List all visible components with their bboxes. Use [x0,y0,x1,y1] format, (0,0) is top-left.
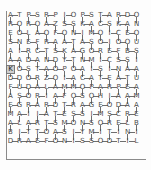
grid-cell[interactable]: L [24,29,33,38]
grid-cell[interactable]: A [33,101,42,110]
grid-cell[interactable]: I [96,56,105,65]
grid-cell[interactable]: R [6,20,15,29]
grid-cell[interactable]: A [87,74,96,83]
grid-cell[interactable]: S [60,128,69,137]
grid-cell[interactable]: C [78,74,87,83]
grid-cell[interactable]: M [69,83,78,92]
grid-cell[interactable]: R [123,110,132,119]
grid-cell[interactable]: T [24,128,33,137]
grid-cell[interactable]: R [42,101,51,110]
grid-cell[interactable]: R [33,74,42,83]
grid-cell[interactable]: T [15,11,24,20]
grid-cell[interactable]: A [24,137,33,146]
grid-cell[interactable]: N [60,137,69,146]
grid-cell[interactable]: S [87,38,96,47]
grid-cell[interactable]: C [33,47,42,56]
grid-cell[interactable]: R [69,101,78,110]
grid-cell[interactable]: I [87,65,96,74]
grid-cell[interactable]: M [132,92,141,101]
grid-cell[interactable]: A [96,83,105,92]
letter-grid-puzzle[interactable]: ATPSRPIOPSTARDOROROAZSSKACSKANEOLAOFONIM… [0,0,151,170]
grid-cell[interactable]: A [51,92,60,101]
grid-cell[interactable]: A [51,83,60,92]
grid-cell[interactable]: T [60,101,69,110]
grid-cell[interactable]: S [78,110,87,119]
grid-cell[interactable]: R [33,119,42,128]
grid-cell[interactable]: O [69,11,78,20]
grid-cell[interactable]: A [24,119,33,128]
grid-cell[interactable]: A [69,74,78,83]
grid-cell[interactable]: A [114,92,123,101]
grid-cell[interactable]: P [24,11,33,20]
grid-cell[interactable]: D [51,56,60,65]
grid-cell[interactable]: M [87,29,96,38]
grid-cell[interactable]: R [15,137,24,146]
grid-cell[interactable]: C [114,110,123,119]
grid-cell[interactable]: P [78,11,87,20]
grid-cell[interactable]: L [42,83,51,92]
grid-cell[interactable]: A [6,56,15,65]
grid-cell[interactable]: A [6,47,15,56]
grid-cell[interactable]: E [105,74,114,83]
grid-cell[interactable]: T [33,128,42,137]
grid-cell[interactable]: O [24,92,33,101]
grid-cell[interactable]: T [42,47,51,56]
grid-cell[interactable]: R [24,101,33,110]
grid-cell[interactable]: E [132,110,141,119]
grid-cell[interactable]: A [87,20,96,29]
grid-cell[interactable]: D [123,11,132,20]
grid-cell[interactable]: P [60,65,69,74]
grid-cell[interactable]: H [96,92,105,101]
grid-cell[interactable]: O [105,101,114,110]
grid-cell[interactable]: E [123,29,132,38]
grid-cell[interactable]: O [15,65,24,74]
grid-cell[interactable]: D [114,101,123,110]
grid-surface[interactable]: ATPSRPIOPSTARDOROROAZSSKACSKANEOLAOFONIM… [0,0,151,170]
grid-cell[interactable]: A [33,83,42,92]
grid-cell[interactable]: I [105,38,114,47]
grid-cell[interactable]: O [78,83,87,92]
grid-cell[interactable]: T [33,65,42,74]
grid-cell[interactable]: I [15,128,24,137]
grid-cell[interactable]: S [96,65,105,74]
grid-cell[interactable]: A [123,65,132,74]
grid-cell[interactable]: L [15,119,24,128]
grid-cell[interactable]: O [96,119,105,128]
grid-cell[interactable]: T [51,110,60,119]
grid-cell[interactable]: O [132,11,141,20]
grid-cell[interactable]: F [51,29,60,38]
grid-cell[interactable]: S [6,38,15,47]
grid-cell[interactable]: A [33,56,42,65]
grid-cell[interactable]: E [33,137,42,146]
grid-cell[interactable]: R [42,38,51,47]
grid-cell[interactable]: S [123,56,132,65]
grid-cell[interactable]: T [69,38,78,47]
grid-cell[interactable]: T [96,11,105,20]
grid-cell[interactable]: S [87,137,96,146]
grid-cell[interactable]: A [6,119,15,128]
grid-cell[interactable]: S [87,119,96,128]
grid-cell[interactable]: I [105,29,114,38]
grid-cell[interactable]: A [132,65,141,74]
grid-cell[interactable]: E [123,83,132,92]
grid-cell[interactable]: D [51,101,60,110]
grid-cell[interactable]: A [105,11,114,20]
grid-cell[interactable]: A [123,20,132,29]
grid-cell[interactable]: S [33,11,42,20]
grid-cell[interactable]: I [60,11,69,20]
grid-cell[interactable]: G [87,101,96,110]
grid-cell[interactable]: P [114,83,123,92]
grid-cell[interactable]: N [132,20,141,29]
grid-cell[interactable]: O [33,20,42,29]
grid-cell[interactable]: A [6,92,15,101]
grid-cell[interactable]: P [51,11,60,20]
grid-cell[interactable]: S [15,92,24,101]
grid-cell[interactable]: T [96,74,105,83]
grid-cell[interactable]: E [114,119,123,128]
grid-cell[interactable]: A [60,38,69,47]
grid-cell[interactable]: N [15,38,24,47]
grid-cell[interactable]: F [60,92,69,101]
grid-cell[interactable]: A [78,65,87,74]
grid-cell[interactable]: A [42,20,51,29]
grid-cell[interactable]: O [51,65,60,74]
